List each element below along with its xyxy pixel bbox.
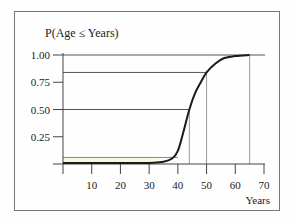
- x-tick-label: 10: [86, 179, 98, 191]
- cdf-chart: P(Age ≤ Years) 0.250.500.751.00102030405…: [0, 0, 294, 220]
- y-tick-label: 0.25: [31, 131, 51, 143]
- chart-title: P(Age ≤ Years): [45, 26, 119, 40]
- y-tick-label: 0.75: [31, 76, 51, 88]
- x-tick-label: 20: [115, 179, 127, 191]
- x-tick-label: 70: [259, 179, 271, 191]
- x-tick-label: 40: [172, 179, 184, 191]
- x-tick-label: 50: [201, 179, 213, 191]
- y-tick-label: 1.00: [31, 49, 51, 61]
- x-tick-label: 30: [144, 179, 156, 191]
- x-axis-label: Years: [245, 194, 270, 206]
- y-tick-label: 0.50: [31, 104, 51, 116]
- x-tick-label: 60: [230, 179, 242, 191]
